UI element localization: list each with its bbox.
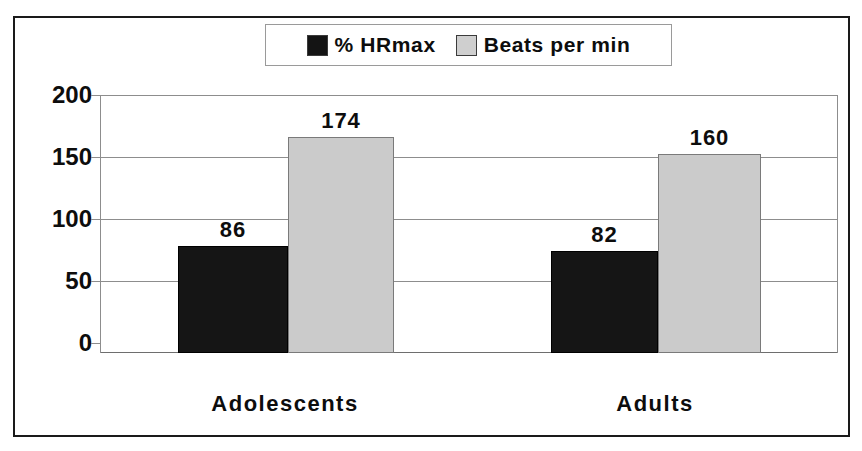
- plot-area: 86 174 82 160: [100, 95, 838, 353]
- y-axis-tick-mark-0: [91, 343, 100, 344]
- x-axis-category-label-adults: Adults: [616, 391, 693, 417]
- y-axis-tick-mark-200: [91, 95, 100, 96]
- legend-label-hrmax: % HRmax: [335, 33, 436, 57]
- y-axis-tick-mark-100: [91, 219, 100, 220]
- y-axis-tick-label-0: 0: [12, 329, 100, 357]
- y-axis-tick-label-100: 100: [12, 205, 100, 233]
- bar-adolescents-beats-per-min[interactable]: 174: [288, 137, 394, 353]
- legend-entry-beats-per-min[interactable]: Beats per min: [456, 33, 631, 57]
- legend-swatch-dark-square-icon: [307, 35, 328, 56]
- legend-swatch-gray-square-icon: [456, 35, 477, 56]
- bar-value-adults-hrmax: 82: [591, 222, 617, 248]
- legend-label-beats-per-min: Beats per min: [484, 33, 631, 57]
- chart-screenshot: % HRmax Beats per min 200 150 100 50 0 8…: [0, 0, 862, 451]
- gridline-200: [101, 95, 837, 96]
- y-axis-tick-label-50: 50: [12, 267, 100, 295]
- chart-legend: % HRmax Beats per min: [265, 24, 672, 66]
- y-axis-tick-mark-150: [91, 157, 100, 158]
- bar-value-adolescents-beats-per-min: 174: [321, 108, 361, 134]
- y-axis-tick-label-200: 200: [12, 81, 100, 109]
- bar-value-adolescents-hrmax: 86: [220, 217, 246, 243]
- bar-adults-beats-per-min[interactable]: 160: [658, 154, 761, 353]
- legend-entry-hrmax[interactable]: % HRmax: [307, 33, 436, 57]
- bar-adults-hrmax[interactable]: 82: [551, 251, 658, 353]
- bar-adolescents-hrmax[interactable]: 86: [178, 246, 288, 353]
- x-axis-category-label-adolescents: Adolescents: [211, 391, 358, 417]
- y-axis: 200 150 100 50 0: [0, 0, 100, 451]
- bar-value-adults-beats-per-min: 160: [690, 125, 730, 151]
- y-axis-tick-mark-50: [91, 281, 100, 282]
- y-axis-tick-label-150: 150: [12, 143, 100, 171]
